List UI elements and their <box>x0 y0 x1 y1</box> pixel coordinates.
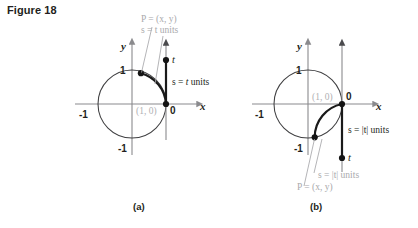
panel-b-point-one-zero <box>339 101 345 107</box>
panel-b-point-t-label: t <box>348 152 352 163</box>
panel-b-leader-arc <box>314 139 322 173</box>
panel-b-leader-point <box>304 139 315 186</box>
panel-a-point-one-zero <box>163 101 169 107</box>
panel-a-point-p <box>138 70 144 76</box>
panel-a-x-axis-label: x <box>199 100 206 112</box>
panel-b-callout-point: P = (x, y) <box>297 182 333 193</box>
panel-a-point-t <box>163 57 169 63</box>
panel-a-tick-y-positive: 1 <box>120 65 126 76</box>
panel-a-tick-x-negative: -1 <box>79 109 88 120</box>
panel-a-point-t-label: t <box>172 54 176 65</box>
panel-b-x-axis-label: x <box>375 100 382 112</box>
panel-b-caption: (b) <box>310 201 322 212</box>
panel-b-y-axis-label: y <box>295 40 302 52</box>
panel-a-tick-y-negative: -1 <box>118 143 127 154</box>
panel-a-leader-arc <box>155 36 163 84</box>
panel-a-unit-point-label: (1, 0) <box>136 106 157 117</box>
panel-a-y-axis-label: y <box>119 40 126 52</box>
panel-a-caption: (a) <box>133 201 145 212</box>
panel-b-unit-point-label: (1, 0) <box>312 92 333 103</box>
panel-b-point-t <box>339 155 345 161</box>
panel-b-tick-y-negative: -1 <box>294 143 303 154</box>
panel-a-origin-label: 0 <box>170 105 176 116</box>
panel-b-segment-length-label: s = |t| units <box>348 125 389 135</box>
figure-container: Figure 18 <box>0 0 418 228</box>
panel-b-tick-x-negative: -1 <box>255 109 264 120</box>
panel-a-callout-point: P = (x, y) <box>141 14 177 25</box>
figure-graphics: x y 1 -1 -1 0 (1, 0) t s = t units P = (… <box>0 0 418 228</box>
panel-b-origin-label: 0 <box>346 91 352 102</box>
panel-a: x y 1 -1 -1 0 (1, 0) t s = t units P = (… <box>75 14 210 155</box>
panel-b-callout-arc: s = |t| units <box>318 170 359 180</box>
panel-a-callout-arc: s = t units <box>141 25 179 35</box>
panel-b-tick-y-positive: 1 <box>296 65 302 76</box>
panel-a-segment-length-label: s = t units <box>172 77 210 87</box>
panel-b: x y 1 -1 -1 0 (1, 0) t s = |t| units s =… <box>252 40 389 193</box>
